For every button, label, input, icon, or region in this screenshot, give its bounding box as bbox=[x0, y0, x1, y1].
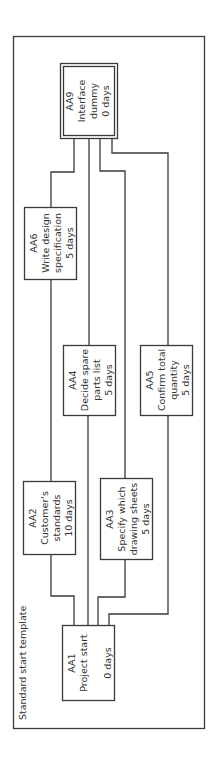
node-aa6[interactable]: AA6 Write design specification 5 days bbox=[25, 208, 77, 280]
edge-aa6-aa9 bbox=[51, 138, 74, 207]
node-aa2-duration: 10 days bbox=[63, 499, 74, 537]
node-aa6-id: AA6 bbox=[28, 233, 39, 252]
node-aa4-id: AA4 bbox=[67, 370, 78, 389]
node-aa5-duration: 5 days bbox=[180, 364, 191, 396]
node-aa4-duration: 5 days bbox=[103, 364, 114, 396]
node-aa1-duration: 0 days bbox=[102, 647, 113, 679]
node-aa9-duration: 0 days bbox=[100, 85, 111, 117]
node-aa1[interactable]: AA1 Project start 0 days bbox=[63, 626, 115, 701]
node-aa4[interactable]: AA4 Decide spare parts list 5 days bbox=[64, 346, 116, 416]
node-aa6-duration: 5 days bbox=[64, 227, 75, 259]
node-aa3-id: AA3 bbox=[104, 509, 115, 528]
node-aa3-name-2: drawing sheets bbox=[128, 483, 139, 556]
node-aa5-name-2: quantity bbox=[168, 360, 179, 400]
node-aa5-name-1: Confirm total bbox=[156, 349, 167, 411]
node-aa6-name-1: Write design bbox=[40, 213, 51, 273]
node-aa5[interactable]: AA5 Confirm total quantity 5 days bbox=[141, 346, 193, 416]
network-diagram: Standard start template AA9 Interface du… bbox=[0, 0, 215, 757]
template-title: Standard start template bbox=[17, 606, 28, 720]
node-aa3-duration: 5 days bbox=[140, 503, 151, 535]
node-aa2-id: AA2 bbox=[27, 508, 38, 527]
node-aa1-id: AA1 bbox=[66, 653, 77, 672]
edge-aa1-aa2 bbox=[51, 554, 74, 625]
node-aa1-name-1: Project start bbox=[78, 634, 89, 692]
node-aa4-name-2: parts list bbox=[91, 359, 102, 401]
node-aa5-id: AA5 bbox=[144, 370, 155, 389]
node-aa2-name-1: Customer's bbox=[39, 491, 50, 545]
node-aa9-name-1: Interface bbox=[76, 80, 87, 123]
node-aa9-name-2: dummy bbox=[88, 83, 99, 120]
node-aa6-name-2: specification bbox=[52, 213, 63, 273]
edge-aa5-aa9 bbox=[112, 138, 168, 345]
node-aa4-name-1: Decide spare bbox=[79, 349, 90, 411]
edge-aa3-aa9 bbox=[100, 138, 125, 478]
node-aa2[interactable]: AA2 Customer's standards 10 days bbox=[24, 482, 76, 555]
edge-aa1-aa3 bbox=[98, 559, 125, 625]
node-aa3[interactable]: AA3 Specify which drawing sheets 5 days bbox=[101, 479, 153, 560]
node-aa9[interactable]: AA9 Interface dummy 0 days bbox=[61, 64, 118, 139]
node-aa2-name-2: standards bbox=[51, 494, 62, 541]
node-aa9-id: AA9 bbox=[64, 91, 75, 110]
node-aa3-name-1: Specify which bbox=[116, 486, 127, 551]
